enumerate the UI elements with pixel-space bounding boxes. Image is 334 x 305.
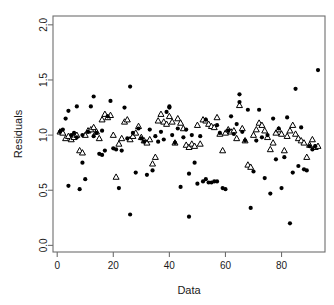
data-point-circle	[285, 115, 289, 119]
residuals-scatter-figure: 0.00.51.01.52.0 020406080 Residuals Data	[0, 0, 334, 305]
data-point-circle	[114, 147, 118, 151]
data-point-triangle	[158, 111, 164, 116]
data-point-circle	[313, 144, 317, 148]
data-point-circle	[181, 135, 185, 139]
data-point-circle	[178, 185, 182, 189]
data-point-circle	[277, 126, 281, 130]
data-point-triangle	[290, 122, 296, 127]
x-tick-label: 0	[54, 260, 60, 271]
fitted-markers	[57, 102, 321, 179]
data-point-circle	[232, 132, 236, 136]
data-point-circle	[131, 131, 135, 135]
data-point-circle	[94, 131, 98, 135]
plot-canvas: 0.00.51.01.52.0 020406080	[0, 0, 334, 305]
data-point-circle	[218, 131, 222, 135]
y-axis-ticks: 0.00.51.01.52.0	[39, 17, 54, 252]
data-point-circle	[125, 136, 129, 140]
data-point-circle	[271, 116, 275, 120]
data-point-triangle	[287, 128, 293, 133]
data-point-circle	[184, 127, 188, 131]
data-point-triangle	[293, 131, 299, 136]
data-point-circle	[237, 100, 241, 104]
data-point-circle	[288, 221, 292, 225]
x-tick-label: 40	[164, 260, 176, 271]
data-point-circle	[156, 140, 160, 144]
data-point-circle	[226, 129, 230, 133]
data-point-circle	[64, 116, 68, 120]
data-point-triangle	[250, 132, 256, 137]
y-tick-label: 1.5	[39, 73, 50, 87]
data-point-triangle	[262, 128, 268, 133]
data-point-circle	[187, 172, 191, 176]
data-point-triangle	[116, 141, 122, 146]
data-point-circle	[164, 110, 168, 114]
data-point-circle	[243, 139, 247, 143]
data-point-circle	[251, 169, 255, 173]
data-point-circle	[75, 104, 79, 108]
data-point-circle	[92, 94, 96, 98]
data-point-circle	[167, 104, 171, 108]
data-point-circle	[198, 134, 202, 138]
x-tick-label: 20	[108, 260, 120, 271]
data-point-circle	[190, 133, 194, 137]
x-axis-ticks: 020406080	[54, 252, 287, 271]
data-point-triangle	[147, 136, 153, 141]
data-point-triangle	[99, 117, 105, 122]
data-point-circle	[268, 191, 272, 195]
data-point-circle	[100, 129, 104, 133]
data-point-circle	[299, 125, 303, 129]
data-point-circle	[204, 118, 208, 122]
data-point-circle	[83, 177, 87, 181]
data-point-triangle	[220, 147, 226, 152]
data-point-circle	[159, 130, 163, 134]
data-point-circle	[240, 130, 244, 134]
data-point-circle	[193, 161, 197, 165]
data-point-circle	[195, 182, 199, 186]
data-point-circle	[78, 187, 82, 191]
data-point-circle	[293, 87, 297, 91]
data-point-circle	[176, 126, 180, 130]
data-point-circle	[120, 148, 124, 152]
y-tick-label: 0.5	[39, 183, 50, 197]
data-point-circle	[223, 187, 227, 191]
y-tick-label: 2.0	[39, 17, 50, 31]
data-point-circle	[291, 170, 295, 174]
data-point-circle	[305, 168, 309, 172]
data-point-circle	[66, 109, 70, 113]
x-axis-label: Data	[53, 284, 325, 296]
data-point-circle	[92, 134, 96, 138]
data-point-triangle	[309, 136, 315, 141]
data-point-triangle	[166, 113, 172, 118]
data-point-circle	[61, 127, 65, 131]
data-point-circle	[136, 126, 140, 130]
data-point-circle	[142, 140, 146, 144]
data-point-triangle	[194, 122, 200, 127]
data-point-circle	[187, 215, 191, 219]
data-point-triangle	[152, 154, 158, 159]
data-point-circle	[153, 134, 157, 138]
data-point-triangle	[253, 126, 259, 131]
data-point-triangle	[267, 146, 273, 151]
data-point-circle	[263, 176, 267, 180]
data-point-triangle	[169, 119, 175, 124]
data-point-circle	[80, 161, 84, 165]
data-point-circle	[235, 122, 239, 126]
data-point-circle	[296, 164, 300, 168]
x-tick-label: 80	[276, 260, 288, 271]
data-point-circle	[128, 212, 132, 216]
data-point-triangle	[175, 115, 181, 120]
data-point-circle	[282, 155, 286, 159]
data-point-circle	[117, 186, 121, 190]
data-point-circle	[310, 147, 314, 151]
y-axis-label: Residuals	[12, 94, 24, 174]
data-point-circle	[246, 108, 250, 112]
data-point-circle	[274, 157, 278, 161]
data-point-circle	[229, 114, 233, 118]
data-point-circle	[279, 186, 283, 190]
data-point-circle	[150, 168, 154, 172]
x-tick-label: 60	[220, 260, 232, 271]
data-point-circle	[170, 133, 174, 137]
data-point-circle	[254, 139, 258, 143]
data-point-triangle	[110, 132, 116, 137]
data-point-triangle	[96, 135, 102, 140]
